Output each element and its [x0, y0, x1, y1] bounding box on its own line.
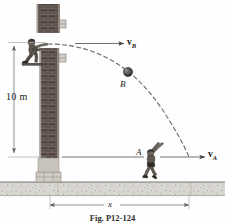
point-a-label: A — [136, 148, 142, 157]
ball-at-b — [123, 67, 132, 76]
horizontal-dimension-label: x — [108, 200, 112, 209]
diagram-canvas — [0, 0, 225, 224]
point-b-label: B — [120, 80, 126, 89]
velocity-a-subscript: A — [213, 154, 217, 161]
brick-wall — [22, 48, 66, 182]
x-label-mask — [104, 199, 120, 210]
figure-container: 10 m vB vA B A x Fig. P12-124 — [0, 0, 225, 224]
figure-caption: Fig. P12-124 — [0, 214, 225, 223]
velocity-b-label: vB — [127, 38, 136, 49]
velocity-a-label: vA — [208, 150, 217, 161]
person-catching — [143, 142, 164, 179]
ground-hatching — [0, 182, 225, 196]
velocity-b-subscript: B — [132, 42, 136, 49]
upper-brick-block — [36, 4, 66, 33]
dashed-parabolic-trajectory — [48, 44, 189, 157]
height-dimension-label: 10 m — [6, 92, 27, 102]
